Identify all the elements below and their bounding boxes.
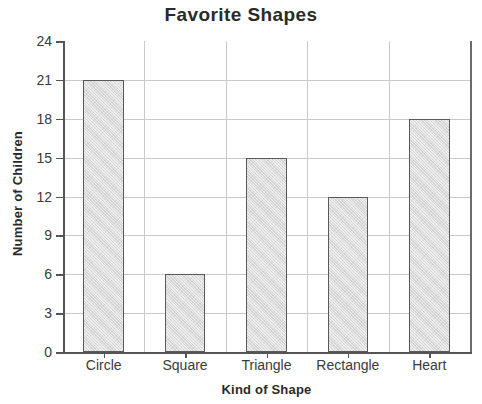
y-axis-tick	[56, 313, 63, 315]
x-axis-label-heart: Heart	[389, 357, 470, 373]
y-axis-tick	[56, 235, 63, 237]
plot-right-border	[470, 41, 472, 354]
y-axis-tick-label: 15	[6, 150, 52, 166]
y-axis-tick	[56, 352, 63, 354]
gridline-vertical	[144, 41, 145, 352]
y-axis-tick-label: 9	[6, 227, 52, 243]
gridline-vertical	[226, 41, 227, 352]
gridline-vertical	[307, 41, 308, 352]
y-axis-tick	[56, 119, 63, 121]
gridline-horizontal	[63, 80, 470, 81]
gridline-vertical	[389, 41, 390, 352]
y-axis-tick-labels: 03691215182124	[0, 0, 52, 404]
chart-title: Favorite Shapes	[0, 4, 482, 26]
y-axis-tick-label: 6	[6, 266, 52, 282]
x-axis-title: Kind of Shape	[63, 382, 470, 397]
y-axis-tick	[56, 158, 63, 160]
y-axis-tick-label: 21	[6, 72, 52, 88]
x-axis-label-rectangle: Rectangle	[307, 357, 388, 373]
bar-chart: Favorite Shapes Number of Children Kind …	[0, 0, 482, 404]
y-axis-tick-label: 3	[6, 305, 52, 321]
bar-square	[165, 274, 206, 352]
y-axis-tick-label: 24	[6, 33, 52, 49]
y-axis-tick-label: 18	[6, 111, 52, 127]
y-axis-tick	[56, 80, 63, 82]
y-axis-tick	[56, 197, 63, 199]
y-axis-tick	[56, 274, 63, 276]
bar-circle	[83, 80, 124, 352]
x-axis-label-circle: Circle	[63, 357, 144, 373]
y-axis-line	[63, 41, 65, 354]
y-axis-tick-label: 12	[6, 189, 52, 205]
x-axis-label-triangle: Triangle	[226, 357, 307, 373]
y-axis-tick-label: 0	[6, 344, 52, 360]
bar-rectangle	[328, 197, 369, 353]
bar-triangle	[246, 158, 287, 352]
plot-area	[63, 41, 470, 352]
y-axis-tick	[56, 41, 63, 43]
x-axis-label-square: Square	[144, 357, 225, 373]
bar-heart	[409, 119, 450, 352]
